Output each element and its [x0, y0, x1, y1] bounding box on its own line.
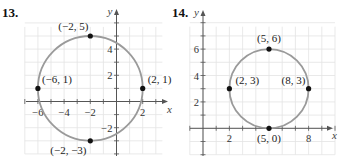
point-label: (5, 6) — [257, 32, 281, 45]
x-tick-label: 2 — [140, 107, 145, 118]
x-axis-label: x — [331, 129, 337, 141]
y-arrow-icon — [201, 10, 206, 16]
data-point — [88, 33, 93, 38]
x-axis-label: x — [166, 103, 172, 115]
x-tick-label: −2 — [85, 107, 96, 118]
x-tick-label: −4 — [59, 107, 71, 118]
data-point — [227, 86, 232, 91]
data-point — [140, 86, 145, 91]
data-point — [266, 47, 271, 52]
y-tick-label: −2 — [101, 123, 112, 134]
y-tick-label: 2 — [194, 97, 199, 108]
y-tick-label: 2 — [107, 70, 112, 81]
point-label: (−2, −3) — [50, 144, 87, 157]
y-tick-label: 6 — [194, 44, 199, 55]
x-tick-label: 2 — [227, 133, 232, 144]
y-tick-label: 4 — [194, 71, 200, 82]
y-axis-label: y — [193, 6, 199, 18]
graph-13: xy−6−4−22−224(−2, 5)(−6, 1)(2, 1)(−2, −3… — [2, 5, 172, 157]
data-point — [306, 86, 311, 91]
y-arrow-icon — [114, 9, 119, 15]
point-label: (−2, 5) — [58, 20, 88, 33]
problem-number: 13. — [2, 5, 18, 20]
data-point — [266, 126, 271, 131]
data-point — [35, 86, 40, 91]
data-point — [88, 138, 93, 143]
y-axis-label: y — [107, 5, 113, 17]
point-label: (2, 1) — [148, 73, 172, 86]
x-tick-label: 8 — [306, 133, 311, 144]
point-label: (2, 3) — [235, 74, 259, 87]
point-label: (8, 3) — [282, 74, 306, 87]
problem-number: 14. — [172, 5, 188, 20]
point-label: (−6, 1) — [42, 73, 72, 86]
graph-14: xy28246(5, 6)(2, 3)(8, 3)(5, 0)14. — [172, 5, 337, 156]
figure: xy−6−4−22−224(−2, 5)(−6, 1)(2, 1)(−2, −3… — [0, 0, 340, 168]
point-label: (5, 0) — [257, 132, 281, 145]
y-tick-label: 4 — [107, 44, 113, 55]
